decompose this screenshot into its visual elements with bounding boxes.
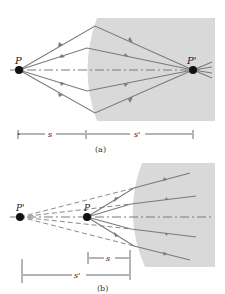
object-label-b: P bbox=[83, 203, 91, 213]
image-point-a bbox=[189, 66, 197, 74]
object-point-a bbox=[15, 66, 23, 74]
dim-sprime-label-a: s' bbox=[134, 130, 140, 139]
caption-b: (b) bbox=[97, 284, 108, 293]
object-label-a: P bbox=[14, 55, 22, 66]
dimension-lines-a bbox=[18, 130, 193, 139]
dim-s-label-a: s bbox=[48, 130, 52, 139]
refraction-diagram: P P' s s' (a) bbox=[0, 0, 225, 294]
image-point-b bbox=[16, 213, 24, 221]
object-point-b bbox=[83, 213, 91, 221]
convex-medium-b bbox=[133, 163, 215, 267]
figure-a: P P' s s' (a) bbox=[10, 18, 215, 154]
dim-s-label-b: s bbox=[106, 254, 110, 263]
dim-sprime-label-b: s' bbox=[74, 271, 80, 280]
figure-b: P' P s s' (b) bbox=[10, 163, 215, 293]
image-label-a: P' bbox=[186, 55, 196, 66]
image-label-b: P' bbox=[15, 203, 25, 213]
caption-a: (a) bbox=[95, 145, 106, 154]
